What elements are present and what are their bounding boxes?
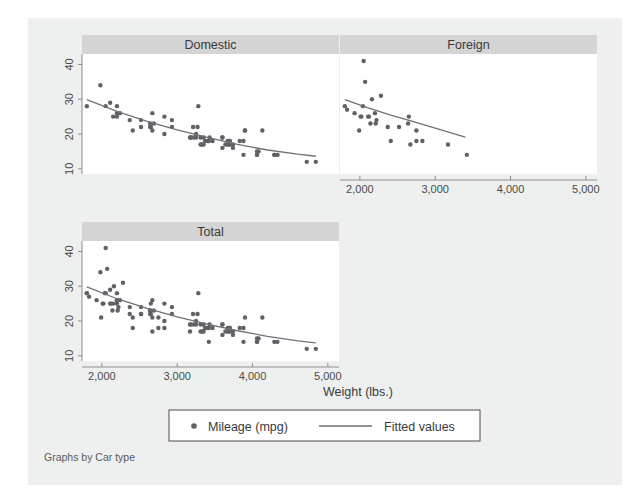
data-point [111,114,115,118]
data-point [203,326,207,330]
data-point [108,101,112,105]
data-point [241,139,245,143]
data-point [243,128,247,132]
panel-total-title: Total [197,225,223,239]
data-point [272,153,276,157]
legend: Mileage (mpg) Fitted values [169,410,480,441]
data-point [156,315,160,319]
data-point [363,80,367,84]
data-point [170,118,174,122]
data-point [305,160,309,164]
data-point [162,114,166,118]
data-point [87,294,91,298]
data-point [94,298,98,302]
panel-total-yaxis: 10203040 [63,241,82,362]
y-tick-label: 10 [63,350,75,362]
stata-graph: Domestic 10203040 Foreign 2,0003,0004,00… [28,18,622,485]
data-point [414,139,418,143]
data-point [110,308,114,312]
data-point [220,322,224,326]
y-tick-label: 30 [63,93,75,105]
panel-total-xaxis: 2,0003,0004,0005,000 [82,363,342,382]
data-point [207,340,211,344]
y-tick-label: 40 [63,58,75,70]
panel-domestic-title: Domestic [184,38,236,52]
data-point [162,132,166,136]
data-point [373,111,377,115]
x-tick-label: 5,000 [314,370,342,382]
data-point [368,121,372,125]
data-point [194,322,198,326]
panel-domestic-yaxis: 10203040 [63,54,82,175]
data-point [220,135,224,139]
data-point [162,301,166,305]
data-point [446,142,450,146]
data-point [406,121,410,125]
data-point [389,139,393,143]
y-tick-label: 20 [63,315,75,327]
data-point [131,128,135,132]
data-point [188,329,192,333]
data-point [408,142,412,146]
x-tick-label: 2,000 [346,183,374,195]
data-point [352,111,356,115]
data-point [194,135,198,139]
data-point [238,139,242,143]
data-point [103,246,107,250]
data-point [162,319,166,323]
data-point [255,336,259,340]
data-point [210,326,214,330]
data-point [101,301,105,305]
data-point [128,312,132,316]
data-point [260,128,264,132]
x-tick-label: 5,000 [572,183,600,195]
data-point [191,312,195,316]
panel-domestic: Domestic 10203040 [63,35,339,175]
data-point [397,125,401,129]
data-point [255,149,259,153]
data-point [220,333,224,337]
data-point [359,114,363,118]
data-point [231,146,235,150]
graph-canvas: Domestic 10203040 Foreign 2,0003,0004,00… [28,18,622,485]
data-point [116,308,120,312]
data-point [128,118,132,122]
data-point [115,104,119,108]
y-tick-label: 10 [63,163,75,175]
data-point [220,146,224,150]
x-tick-label: 3,000 [421,183,449,195]
data-point [131,326,135,330]
legend-line-label: Fitted values [384,420,455,434]
data-point [105,267,109,271]
data-point [225,329,229,333]
data-point [128,305,132,309]
data-point [85,104,89,108]
panel-foreign: Foreign 2,0003,0004,0005,000 [340,35,600,195]
data-point [465,153,469,157]
data-point [188,322,192,326]
data-point [99,315,103,319]
data-point [203,139,207,143]
data-point [200,142,204,146]
data-point [170,305,174,309]
data-point [149,125,153,129]
data-point [272,340,276,344]
data-point [150,111,154,115]
data-point [374,121,378,125]
panel-total: Total 10203040 2,0003,0004,0005,000 [63,222,342,382]
data-point [231,333,235,337]
data-point [414,128,418,132]
data-point [305,347,309,351]
data-point [420,139,424,143]
data-point [366,114,370,118]
data-point [196,104,200,108]
graph-note: Graphs by Car type [44,451,135,463]
legend-marker-label: Mileage (mpg) [208,420,288,434]
data-point [370,97,374,101]
data-point [241,153,245,157]
data-point [361,59,365,63]
data-point [407,114,411,118]
data-point [149,301,153,305]
panel-foreign-xaxis: 2,0003,0004,0005,000 [340,176,600,195]
data-point [196,291,200,295]
